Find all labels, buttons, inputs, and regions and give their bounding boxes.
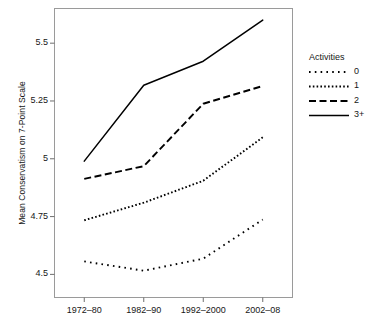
chart-figure: Mean Conservatism on 7-Point Scale 4.54.… — [0, 0, 376, 323]
plot-area — [0, 0, 376, 323]
legend-line-keys — [309, 72, 349, 116]
x-axis-ticks — [84, 298, 263, 303]
y-axis-ticks — [50, 43, 55, 274]
